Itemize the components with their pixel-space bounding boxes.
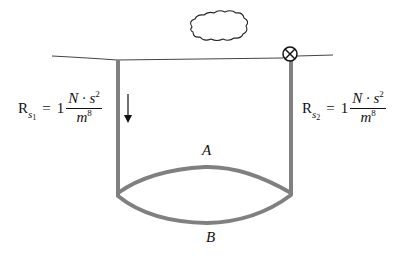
resistance-subscript: s1: [28, 108, 36, 120]
equals-sign: =: [326, 100, 334, 117]
numerator-exp: 2: [95, 89, 100, 99]
branch-b-label: B: [206, 229, 215, 246]
ventilation-network-diagram: [0, 0, 406, 256]
arrow-down-icon: [124, 94, 132, 123]
left-shaft-resistance: Rs1 = 1 N · s2 m8: [18, 90, 102, 127]
numerator-base: N · s: [68, 90, 95, 106]
sub-index: 1: [32, 113, 36, 122]
right-shaft-resistance: Rs2 = 1 N · s2 m8: [302, 90, 386, 127]
branch-a-label: A: [202, 142, 211, 159]
surface-line: [52, 56, 283, 60]
equals-sign: =: [42, 100, 50, 117]
surface-line-right: [297, 55, 333, 56]
coefficient: 1: [57, 100, 65, 117]
denominator: m8: [360, 109, 375, 127]
units-fraction: N · s2 m8: [66, 90, 102, 127]
cloud-icon: [191, 11, 248, 41]
numerator: N · s2: [66, 90, 102, 108]
units-fraction: N · s2 m8: [350, 90, 386, 127]
resistance-symbol: R: [18, 100, 28, 117]
sub-index: 2: [316, 113, 320, 122]
denominator-exp: 8: [87, 108, 92, 118]
denominator-exp: 8: [371, 108, 376, 118]
numerator-base: N · s: [352, 90, 379, 106]
numerator: N · s2: [350, 90, 386, 108]
branch-a-pipe: [118, 167, 291, 193]
denominator-base: m: [76, 109, 87, 125]
coefficient: 1: [341, 100, 349, 117]
resistance-symbol: R: [302, 100, 312, 117]
valve-icon: [283, 47, 297, 61]
denominator: m8: [76, 109, 91, 127]
numerator-exp: 2: [379, 89, 384, 99]
denominator-base: m: [360, 109, 371, 125]
branch-b-pipe: [118, 195, 291, 223]
resistance-subscript: s2: [312, 108, 320, 120]
